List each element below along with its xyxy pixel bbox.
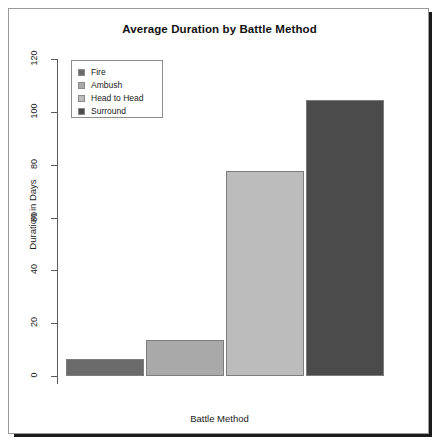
- legend-swatch-icon: [78, 69, 85, 76]
- bar-head-to-head: [226, 171, 304, 376]
- legend-swatch-icon: [78, 108, 85, 115]
- legend-swatch-icon: [78, 82, 85, 89]
- legend-item: Fire: [78, 66, 162, 78]
- bar-ambush: [146, 340, 224, 376]
- legend-item-label: Fire: [91, 68, 106, 77]
- chart-frame: Average Duration by Battle Method Durati…: [8, 8, 429, 434]
- chart-legend: FireAmbushHead to HeadSurround: [71, 60, 163, 118]
- legend-item-label: Surround: [91, 107, 126, 116]
- legend-item: Ambush: [78, 79, 162, 91]
- legend-item: Surround: [78, 105, 162, 117]
- bar-fire: [66, 359, 144, 376]
- legend-item: Head to Head: [78, 92, 162, 104]
- legend-swatch-icon: [78, 95, 85, 102]
- legend-item-label: Ambush: [91, 81, 122, 90]
- chart-screenshot: Average Duration by Battle Method Durati…: [0, 0, 439, 445]
- bar-surround: [306, 100, 384, 376]
- legend-item-label: Head to Head: [91, 94, 143, 103]
